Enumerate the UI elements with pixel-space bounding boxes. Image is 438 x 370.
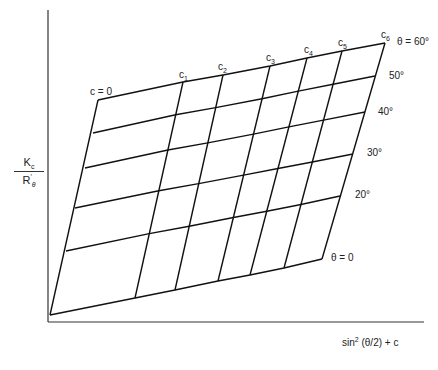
x-axis-label: sin2 (θ/2) + c xyxy=(342,336,398,348)
y-label-numerator: K xyxy=(24,156,31,168)
c-line-0 xyxy=(50,100,98,315)
theta-label-60: θ = 60° xyxy=(397,36,429,47)
c-label-5: c5 xyxy=(338,37,347,50)
theta-line-0 xyxy=(50,259,322,315)
theta-label-50: 50° xyxy=(389,70,404,81)
theta-line-2 xyxy=(75,154,353,208)
theta-line-1 xyxy=(66,196,340,251)
y-label-denominator-sub: θ xyxy=(32,181,36,188)
x-label-rest: (θ/2) + c xyxy=(359,337,399,348)
c-label-6: c6 xyxy=(381,29,390,42)
nomogram-diagram xyxy=(0,0,438,370)
c-label-2: c2 xyxy=(218,61,227,74)
theta-label-40: 40° xyxy=(378,106,393,117)
c-label-1: c1 xyxy=(179,69,188,82)
theta-label-20: 20° xyxy=(355,189,370,200)
theta-label-30: 30° xyxy=(367,147,382,158)
theta-line-5 xyxy=(98,43,385,100)
x-label-sin: sin xyxy=(342,337,355,348)
theta-label-0: θ = 0 xyxy=(331,252,354,263)
c-label-0: c = 0 xyxy=(90,86,112,97)
constant-theta-lines xyxy=(50,43,385,315)
y-label-prime: ′ xyxy=(30,173,31,180)
c-label-4: c4 xyxy=(304,44,313,57)
c-label-3: c3 xyxy=(266,52,275,65)
theta-line-4 xyxy=(93,76,375,133)
y-label-numerator-sub: c xyxy=(31,163,35,170)
y-axis-label: Kc R′θ xyxy=(14,156,44,188)
